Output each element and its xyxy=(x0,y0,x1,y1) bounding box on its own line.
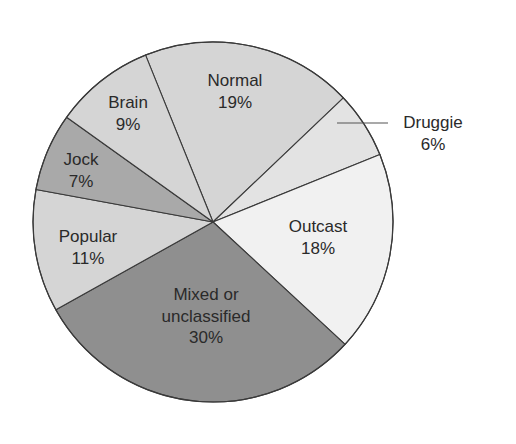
pie-chart: Normal19%Druggie6%Outcast18%Mixed oruncl… xyxy=(0,0,516,444)
slice-label-druggie: Druggie6% xyxy=(403,113,463,154)
